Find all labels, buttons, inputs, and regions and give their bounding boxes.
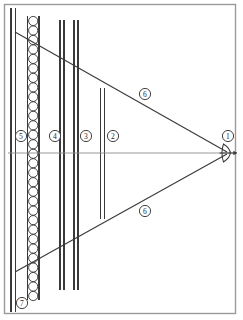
callout-1: 1 <box>222 130 233 141</box>
ray-diagram-figure: 12345667 <box>0 0 243 320</box>
callout-5-number: 5 <box>19 132 23 141</box>
callout-5: 5 <box>15 130 26 141</box>
callout-6-lower-number: 6 <box>143 207 147 216</box>
callout-6-lower: 6 <box>139 205 150 216</box>
callout-3-number: 3 <box>84 132 88 141</box>
callout-2: 2 <box>107 130 118 141</box>
callout-6-upper: 6 <box>139 88 150 99</box>
callout-7: 7 <box>16 297 27 308</box>
diagram-canvas: 12345667 <box>0 0 243 320</box>
callout-4: 4 <box>49 130 60 141</box>
callout-4-number: 4 <box>53 132 57 141</box>
callout-6-upper-number: 6 <box>143 90 147 99</box>
callout-1-number: 1 <box>226 132 230 141</box>
callout-2-number: 2 <box>111 132 115 141</box>
callout-7-number: 7 <box>20 299 24 308</box>
callout-3: 3 <box>80 130 91 141</box>
